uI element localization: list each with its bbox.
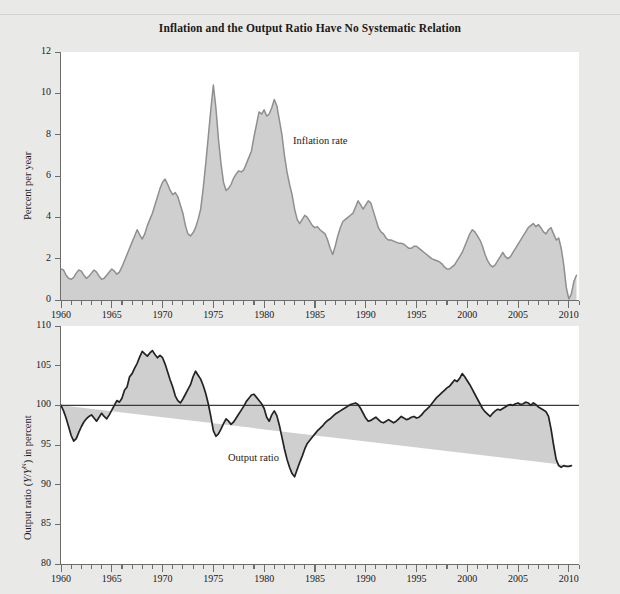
x-tick-mark-major — [314, 301, 315, 308]
x-tick-mark-minor — [91, 301, 92, 305]
x-tick-mark-major — [467, 301, 468, 308]
x-tick-mark-minor — [386, 301, 387, 305]
x-tick-mark-major — [61, 301, 62, 308]
x-tick-mark-minor — [507, 301, 508, 305]
x-tick-mark-major — [568, 565, 569, 572]
x-tick-label: 1975 — [191, 573, 235, 584]
x-tick-mark-minor — [558, 565, 559, 569]
x-tick-mark-minor — [193, 301, 194, 305]
x-tick-mark-minor — [406, 301, 407, 305]
x-tick-mark-minor — [507, 565, 508, 569]
x-tick-mark-minor — [558, 301, 559, 305]
x-tick-mark-minor — [101, 301, 102, 305]
x-tick-mark-minor — [345, 565, 346, 569]
x-tick-mark-minor — [101, 565, 102, 569]
x-tick-mark-minor — [274, 565, 275, 569]
x-tick-mark-minor — [233, 565, 234, 569]
x-tick-mark-minor — [335, 565, 336, 569]
x-tick-mark-minor — [396, 565, 397, 569]
x-tick-mark-minor — [243, 565, 244, 569]
x-tick-mark-minor — [172, 565, 173, 569]
y-tick-label: 80 — [19, 557, 51, 568]
y-tick-label: 12 — [19, 45, 51, 56]
x-tick-mark-major — [162, 301, 163, 308]
x-tick-mark-minor — [182, 301, 183, 305]
y-tick-label: 2 — [19, 252, 51, 263]
x-tick-label: 2005 — [496, 573, 540, 584]
x-tick-label: 2010 — [547, 573, 591, 584]
x-tick-mark-major — [365, 301, 366, 308]
figure-title: Inflation and the Output Ratio Have No S… — [0, 22, 620, 34]
x-tick-label: 1985 — [293, 573, 337, 584]
figure-container: Inflation and the Output Ratio Have No S… — [0, 0, 620, 594]
x-tick-label: 1960 — [39, 573, 83, 584]
x-tick-mark-minor — [284, 301, 285, 305]
x-tick-mark-major — [416, 301, 417, 308]
x-tick-label: 1970 — [141, 573, 185, 584]
x-tick-mark-minor — [548, 301, 549, 305]
x-tick-mark-minor — [345, 301, 346, 305]
y-tick-label: 8 — [19, 128, 51, 139]
x-tick-mark-major — [162, 565, 163, 572]
x-tick-mark-minor — [446, 565, 447, 569]
x-tick-mark-minor — [436, 301, 437, 305]
x-tick-mark-minor — [203, 301, 204, 305]
x-tick-mark-minor — [304, 565, 305, 569]
x-tick-mark-major — [213, 565, 214, 572]
inflation-series-label: Inflation rate — [293, 135, 348, 146]
x-tick-mark-major — [568, 301, 569, 308]
x-tick-mark-minor — [325, 301, 326, 305]
x-tick-mark-minor — [487, 565, 488, 569]
x-tick-mark-major — [314, 565, 315, 572]
x-tick-mark-minor — [172, 301, 173, 305]
x-tick-mark-minor — [457, 301, 458, 305]
x-tick-mark-minor — [274, 301, 275, 305]
x-tick-mark-minor — [538, 565, 539, 569]
y-tick-label: 105 — [19, 359, 51, 370]
x-tick-mark-minor — [71, 565, 72, 569]
y-tick-mark — [55, 326, 61, 327]
x-tick-mark-minor — [446, 301, 447, 305]
x-tick-mark-minor — [426, 565, 427, 569]
x-tick-label: 1980 — [242, 573, 286, 584]
x-tick-mark-minor — [579, 565, 580, 569]
y-tick-mark — [55, 484, 61, 485]
y-tick-label: 10 — [19, 86, 51, 97]
x-tick-mark-minor — [375, 565, 376, 569]
y-tick-mark — [55, 405, 61, 406]
output-ratio-panel: 80859095100105110 1960196519701975198019… — [0, 312, 620, 582]
y-tick-label: 0 — [19, 293, 51, 304]
x-tick-mark-minor — [81, 301, 82, 305]
inflation-y-axis-title: Percent per year — [22, 152, 33, 220]
x-tick-mark-minor — [121, 565, 122, 569]
x-tick-mark-minor — [223, 301, 224, 305]
x-tick-mark-major — [264, 565, 265, 572]
x-tick-mark-minor — [142, 301, 143, 305]
x-tick-mark-minor — [91, 565, 92, 569]
x-tick-mark-major — [111, 301, 112, 308]
x-tick-mark-major — [518, 301, 519, 308]
x-tick-mark-minor — [81, 565, 82, 569]
x-tick-mark-minor — [223, 565, 224, 569]
x-tick-mark-minor — [182, 565, 183, 569]
x-tick-mark-minor — [253, 301, 254, 305]
x-tick-mark-minor — [132, 301, 133, 305]
inflation-series-svg — [0, 40, 620, 315]
x-tick-mark-minor — [121, 301, 122, 305]
y-tick-mark — [55, 258, 61, 259]
x-tick-mark-minor — [152, 301, 153, 305]
x-tick-mark-minor — [497, 301, 498, 305]
x-tick-mark-minor — [142, 565, 143, 569]
y-tick-label: 100 — [19, 398, 51, 409]
x-tick-mark-minor — [477, 565, 478, 569]
x-tick-mark-minor — [436, 565, 437, 569]
x-tick-mark-minor — [497, 565, 498, 569]
output-ratio-series-svg — [0, 312, 620, 582]
x-tick-mark-major — [61, 565, 62, 572]
x-tick-mark-minor — [477, 301, 478, 305]
x-tick-label: 2000 — [445, 573, 489, 584]
x-tick-mark-major — [111, 565, 112, 572]
y-tick-mark — [55, 176, 61, 177]
y-tick-mark — [55, 365, 61, 366]
x-tick-mark-minor — [579, 301, 580, 305]
